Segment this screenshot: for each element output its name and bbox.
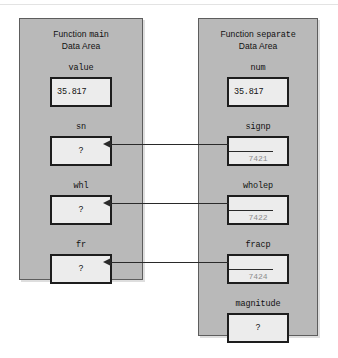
panel-main-title-line2: Data Area xyxy=(20,41,142,52)
pointer-arrow-signp-to-sn xyxy=(110,144,229,145)
variable-value-num: 35.817 xyxy=(229,79,292,105)
variable-value-magnitude: ? xyxy=(229,315,287,341)
panel-separate-title-line2: Data Area xyxy=(199,41,317,52)
pointer-arrowhead-signp-to-sn xyxy=(103,140,111,148)
variable-address-wholep: 7422 xyxy=(229,213,287,222)
pointer-stub-signp xyxy=(229,151,273,152)
variable-value-value: 35.817 xyxy=(52,79,115,105)
pointer-arrowhead-wholep-to-whl xyxy=(103,199,111,207)
variable-label-wholep: wholep xyxy=(199,181,317,191)
pointer-stub-fracp xyxy=(229,269,273,270)
variable-value-fr: ? xyxy=(52,256,110,282)
variable-box-value: 35.817 xyxy=(50,77,112,107)
pointer-arrow-wholep-to-whl xyxy=(110,203,229,204)
variable-group-magnitude: magnitude ? xyxy=(199,299,317,343)
variable-label-num: num xyxy=(199,63,317,73)
variable-label-value: value xyxy=(20,63,142,73)
variable-group-num: num 35.817 xyxy=(199,63,317,107)
panel-function-separate: Function separate Data Area num 35.817 s… xyxy=(198,18,318,336)
pointer-arrowhead-fracp-to-fr xyxy=(103,258,111,266)
panel-separate-title: Function separate Data Area xyxy=(199,29,317,52)
variable-address-signp: 7421 xyxy=(229,154,287,163)
variable-label-sn: sn xyxy=(20,122,142,132)
panel-separate-function-name: separate xyxy=(256,30,295,40)
variable-label-whl: whl xyxy=(20,181,142,191)
variable-value-sn: ? xyxy=(52,138,110,164)
variable-label-magnitude: magnitude xyxy=(199,299,317,309)
variable-group-value: value 35.817 xyxy=(20,63,142,107)
variable-value-whl: ? xyxy=(52,197,110,223)
variable-box-magnitude: ? xyxy=(227,313,289,343)
variable-label-fracp: fracp xyxy=(199,240,317,250)
panel-main-title: Function main Data Area xyxy=(20,29,142,52)
variable-box-fracp: 7424 xyxy=(227,254,289,284)
pointer-arrow-fracp-to-fr xyxy=(110,262,229,263)
variable-label-signp: signp xyxy=(199,122,317,132)
variable-box-signp: 7421 xyxy=(227,136,289,166)
variable-box-num: 35.817 xyxy=(227,77,289,107)
diagram-canvas: Function main Data Area value 35.817 sn … xyxy=(0,0,338,358)
pointer-stub-wholep xyxy=(229,210,273,211)
panel-main-function-name: main xyxy=(89,30,109,40)
panel-main-title-prefix: Function xyxy=(53,29,89,39)
panel-separate-title-prefix: Function xyxy=(220,29,256,39)
variable-address-fracp: 7424 xyxy=(229,272,287,281)
variable-label-fr: fr xyxy=(20,240,142,250)
top-divider-rule xyxy=(0,4,338,5)
variable-box-wholep: 7422 xyxy=(227,195,289,225)
panel-function-main: Function main Data Area value 35.817 sn … xyxy=(19,18,143,280)
